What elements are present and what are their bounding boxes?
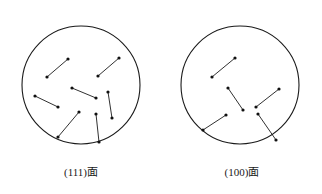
segment-endpoint-dot bbox=[33, 94, 36, 97]
segment-endpoint-dot bbox=[256, 112, 259, 115]
segment bbox=[258, 114, 276, 140]
segment-endpoint-dot bbox=[70, 86, 73, 89]
crystal-face-diagram: (111)面 (1 bbox=[0, 0, 322, 194]
caption-111-face: (111)面 bbox=[0, 163, 162, 179]
caption-100-face: (100)面 bbox=[162, 163, 322, 179]
segment-endpoint-dot bbox=[117, 56, 120, 59]
segment bbox=[96, 114, 99, 142]
segment bbox=[72, 88, 96, 98]
panel-100-drawing bbox=[162, 0, 322, 160]
segment-endpoint-dot bbox=[45, 75, 48, 78]
segment-endpoint-dot bbox=[56, 135, 59, 138]
segment bbox=[35, 96, 58, 107]
segment-endpoint-dot bbox=[96, 74, 99, 77]
segment-endpoint-dot bbox=[77, 110, 80, 113]
segment-endpoint-dot bbox=[201, 128, 204, 131]
segment-endpoint-dot bbox=[241, 108, 244, 111]
circle-100 bbox=[181, 26, 299, 144]
panel-111-drawing bbox=[0, 0, 162, 160]
segment bbox=[256, 89, 279, 107]
dots-111 bbox=[33, 56, 120, 143]
segment-endpoint-dot bbox=[224, 113, 227, 116]
segments-100 bbox=[203, 58, 279, 140]
circle-111 bbox=[22, 26, 140, 144]
segments-111 bbox=[35, 58, 119, 142]
segment-endpoint-dot bbox=[274, 138, 277, 141]
segment-endpoint-dot bbox=[97, 140, 100, 143]
segment bbox=[47, 59, 68, 77]
segment-endpoint-dot bbox=[277, 87, 280, 90]
segment bbox=[108, 92, 112, 118]
segment-endpoint-dot bbox=[94, 112, 97, 115]
segment-endpoint-dot bbox=[66, 57, 69, 60]
segment-endpoint-dot bbox=[226, 86, 229, 89]
segment-endpoint-dot bbox=[110, 116, 113, 119]
segment bbox=[228, 88, 243, 110]
segment bbox=[203, 115, 226, 130]
segment bbox=[98, 58, 119, 76]
segment-endpoint-dot bbox=[233, 56, 236, 59]
segment-endpoint-dot bbox=[106, 90, 109, 93]
segment-endpoint-dot bbox=[210, 75, 213, 78]
segment-endpoint-dot bbox=[56, 105, 59, 108]
segment-endpoint-dot bbox=[254, 105, 257, 108]
segment-endpoint-dot bbox=[94, 96, 97, 99]
panel-111-face: (111)面 bbox=[0, 0, 162, 194]
segment bbox=[212, 58, 235, 77]
panel-100-face: (100)面 bbox=[162, 0, 322, 194]
segment bbox=[58, 112, 79, 137]
